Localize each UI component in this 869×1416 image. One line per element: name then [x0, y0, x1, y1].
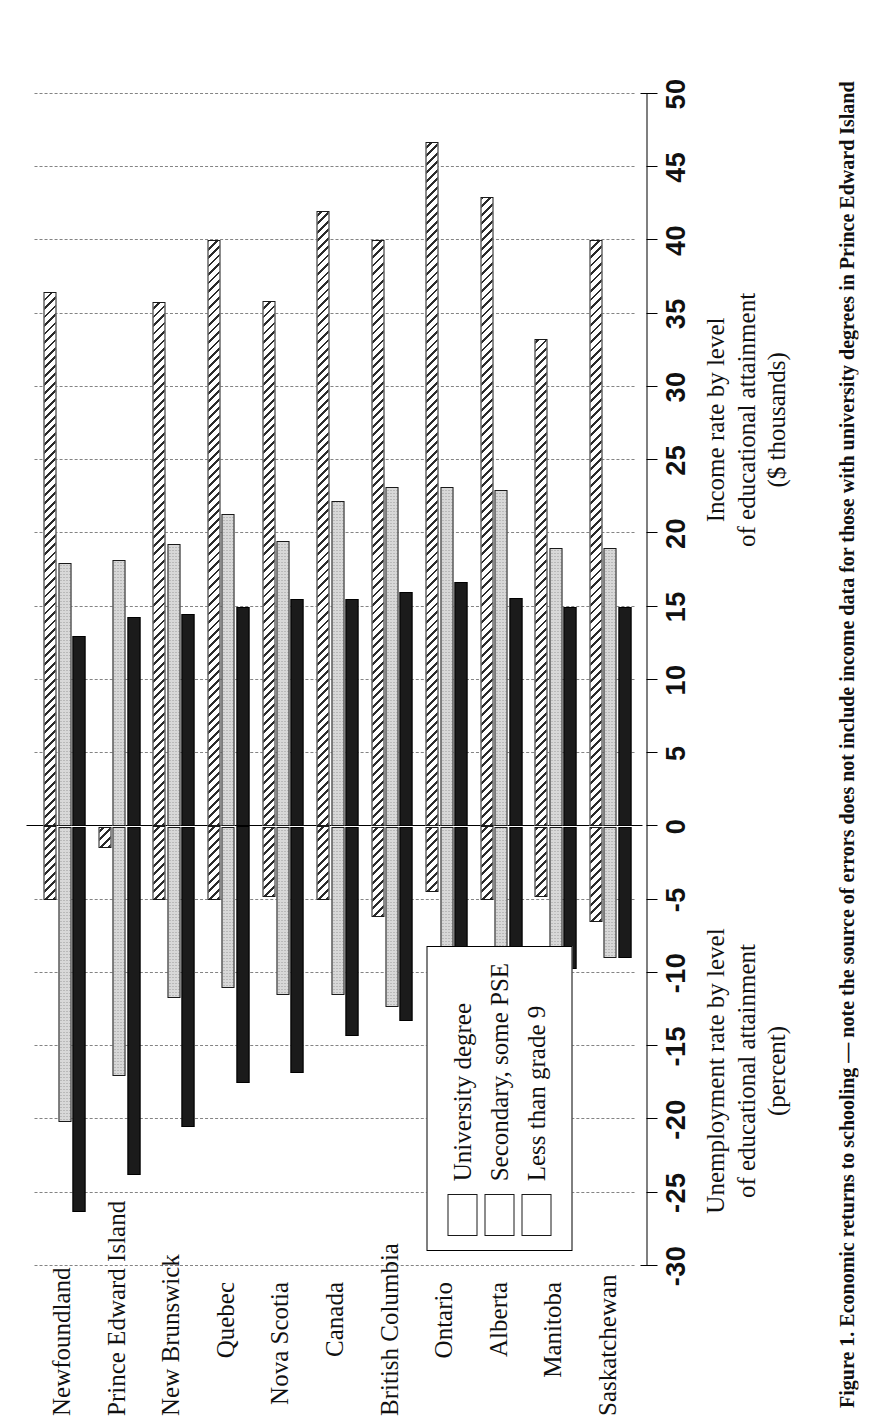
bar-income [534, 339, 547, 827]
legend-item-label: Secondary, some PSE [485, 963, 513, 1182]
bar-income [331, 501, 344, 826]
axis-title-unemployment: Unemployment rate by levelof educational… [700, 836, 792, 1306]
bar-unemployment [331, 827, 344, 995]
gridline [34, 240, 634, 241]
legend-item-label: Less than grade 9 [522, 1006, 550, 1182]
gridline [34, 166, 634, 167]
bar-unemployment [316, 827, 329, 900]
bar-income [207, 241, 220, 827]
chart-stage: -30-25-20-15-10-505101520253035404550 Ne… [0, 0, 869, 1416]
axis-title-line: ($ thousands) [761, 185, 792, 655]
bar-unemployment [58, 827, 71, 1123]
gridline [34, 93, 634, 94]
figure-caption-text: Figure 1. Economic returns to schooling … [836, 8, 859, 1408]
bar-unemployment [534, 827, 547, 897]
axis-tick-label: 35 [660, 284, 691, 344]
axis-title-line: (percent) [761, 836, 792, 1306]
bar-income [385, 487, 398, 827]
axis-title-line: of educational attainment [731, 836, 762, 1306]
axis-tick [646, 1045, 657, 1046]
legend-swatch-university [447, 1194, 477, 1236]
bar-income [549, 548, 562, 826]
axis-tick-label: 50 [660, 64, 691, 124]
axis-tick [646, 972, 657, 973]
bar-unemployment [127, 827, 140, 1176]
axis-tick [646, 1119, 657, 1120]
axis-tick [646, 1192, 657, 1193]
bar-unemployment [618, 827, 631, 959]
axis-title-income: Income rate by levelof educational attai… [700, 185, 792, 655]
axis-tick [646, 826, 657, 827]
bar-unemployment [290, 827, 303, 1073]
axis-tick-label: 15 [660, 577, 691, 637]
category-label: Prince Edward Island [94, 1282, 138, 1416]
bar-income [480, 197, 493, 827]
category-label: Ontario [421, 1282, 465, 1416]
axis-tick-label: -15 [660, 1016, 691, 1076]
bar-unemployment [167, 827, 180, 998]
chart-legend: University degreeSecondary, some PSELess… [426, 946, 572, 1252]
category-label: Newfoundland [39, 1282, 83, 1416]
axis-tick-label: -30 [660, 1236, 691, 1296]
bar-income [236, 607, 249, 827]
bar-income [127, 617, 140, 826]
bar-unemployment [494, 827, 507, 963]
bar-income [43, 292, 56, 827]
bar-income [371, 241, 384, 827]
category-label: New Brunswick [148, 1282, 192, 1416]
bar-income [262, 301, 275, 827]
bar-income [425, 142, 438, 826]
axis-tick [646, 679, 657, 680]
bar-income [167, 544, 180, 827]
bar-unemployment [603, 827, 616, 959]
axis-tick-label: -20 [660, 1090, 691, 1150]
figure-canvas: -30-25-20-15-10-505101520253035404550 Ne… [0, 0, 869, 1416]
category-label: Alberta [476, 1282, 520, 1416]
axis-tick-label: -25 [660, 1163, 691, 1223]
category-label: British Columbia [367, 1282, 411, 1416]
bar-income [589, 241, 602, 827]
bar-income [58, 563, 71, 827]
axis-title-line: of educational attainment [731, 185, 762, 655]
axis-title-line: Unemployment rate by level [700, 836, 731, 1306]
legend-swatch-secondary [484, 1194, 514, 1236]
bar-unemployment [207, 827, 220, 900]
axis-tick [646, 386, 657, 387]
bar-income [181, 614, 194, 826]
axis-tick [646, 533, 657, 534]
value-axis-line [646, 94, 647, 1266]
axis-title-line: Income rate by level [700, 185, 731, 655]
axis-tick [646, 899, 657, 900]
legend-item: Less than grade 9 [521, 963, 551, 1237]
axis-tick-label: 20 [660, 504, 691, 564]
bar-income [618, 607, 631, 827]
legend-item-label: University degree [448, 1003, 476, 1181]
bar-unemployment [112, 827, 125, 1076]
category-label: Manitoba [530, 1282, 574, 1416]
figure-caption: Figure 1. Economic returns to schooling … [827, 0, 867, 1416]
bar-income [563, 607, 576, 827]
bar-income [440, 487, 453, 827]
axis-tick-label: 0 [660, 797, 691, 857]
axis-tick [646, 752, 657, 753]
axis-end-cap [640, 1265, 653, 1266]
gridline [34, 313, 634, 314]
axis-end-cap [640, 93, 653, 94]
bar-unemployment [181, 827, 194, 1127]
category-label: Quebec [203, 1282, 247, 1416]
bar-unemployment [152, 827, 165, 900]
bar-income [276, 541, 289, 827]
axis-tick [646, 606, 657, 607]
axis-tick-label: -10 [660, 943, 691, 1003]
bar-income [454, 582, 467, 827]
bar-unemployment [43, 827, 56, 900]
bar-unemployment [385, 827, 398, 1007]
bar-income [72, 636, 85, 826]
legend-item: University degree [447, 963, 477, 1237]
axis-tick-label: 45 [660, 137, 691, 197]
bar-income [112, 560, 125, 827]
axis-tick-label: 25 [660, 430, 691, 490]
bar-income [509, 598, 522, 827]
bar-income [152, 302, 165, 826]
bar-income [399, 592, 412, 826]
